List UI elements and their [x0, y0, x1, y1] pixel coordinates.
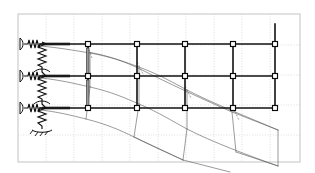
background-grid — [18, 14, 300, 162]
deformed-curve-upper-tail — [88, 52, 232, 112]
node — [231, 42, 236, 47]
frame-columns — [88, 24, 275, 108]
deformed-block-edge-b — [236, 152, 278, 166]
deformed-block-edge-c — [134, 137, 183, 160]
anchor-fork-floor2 — [20, 70, 23, 82]
node — [231, 106, 236, 111]
node — [273, 42, 278, 47]
node — [183, 42, 188, 47]
node — [135, 106, 140, 111]
anchor-fork-floor1 — [20, 102, 23, 114]
deformed-hinge-ticks — [88, 46, 239, 120]
spring-vertical-column — [38, 42, 46, 129]
node — [86, 106, 91, 111]
node — [86, 42, 91, 47]
node — [273, 74, 278, 79]
node — [135, 74, 140, 79]
deformed-mesh — [41, 46, 278, 172]
plot-border — [18, 14, 300, 162]
deformed-block-edge-d — [232, 112, 278, 130]
deformed-column-4 — [232, 112, 236, 152]
node — [183, 106, 188, 111]
node — [183, 74, 188, 79]
figure-canvas: Deformed shape of three-bay three-storey… — [0, 0, 315, 173]
fixed-base — [30, 130, 52, 136]
node — [86, 74, 91, 79]
deformed-curve-roof — [41, 46, 278, 130]
deformed-curve-floor2 — [41, 78, 278, 166]
frame-beams — [40, 44, 275, 108]
support-assembly — [20, 38, 52, 136]
node — [231, 74, 236, 79]
deformed-column-3b — [183, 129, 187, 160]
frame-deformation-plot — [0, 0, 315, 173]
node — [273, 106, 278, 111]
anchor-fork-roof — [20, 38, 23, 50]
node — [135, 42, 140, 47]
